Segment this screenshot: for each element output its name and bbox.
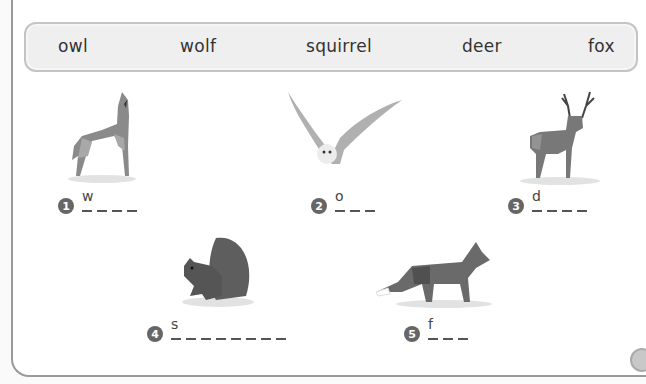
answer-field-4[interactable]: s <box>171 316 289 342</box>
answer-field-2[interactable]: o <box>335 188 379 214</box>
number-badge: 3 <box>508 198 524 214</box>
answer-field-5[interactable]: f <box>428 316 472 342</box>
wolf-illustration <box>62 86 142 186</box>
word-bank: owl wolf squirrel deer fox <box>24 22 638 72</box>
exercise-2: 2 o <box>311 188 379 214</box>
number-badge: 1 <box>58 198 74 214</box>
word-squirrel: squirrel <box>306 36 372 56</box>
answer-field-3[interactable]: d <box>532 188 590 214</box>
exercise-4: 4 s <box>147 316 289 342</box>
squirrel-illustration <box>176 234 266 314</box>
exercise-1: 1 w <box>58 188 140 214</box>
number-badge: 5 <box>404 326 420 342</box>
word-owl: owl <box>58 36 88 56</box>
word-wolf: wolf <box>180 36 216 56</box>
deer-illustration <box>510 88 610 188</box>
word-deer: deer <box>462 36 502 56</box>
exercise-3: 3 d <box>508 188 590 214</box>
number-badge: 4 <box>147 326 163 342</box>
exercise-5: 5 f <box>404 316 472 342</box>
owl-illustration <box>282 88 407 178</box>
word-fox: fox <box>588 36 615 56</box>
answer-field-1[interactable]: w <box>82 188 140 214</box>
number-badge: 2 <box>311 198 327 214</box>
fox-illustration <box>372 232 498 312</box>
